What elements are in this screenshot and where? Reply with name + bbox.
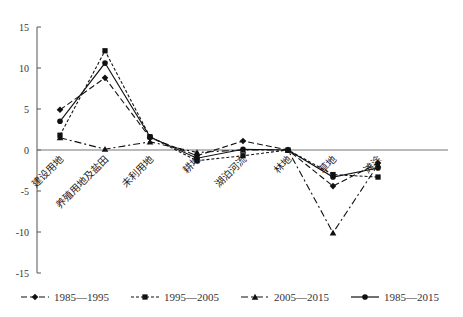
x-category-label: 建设用地 <box>29 153 66 190</box>
legend-label: 1985—1995 <box>54 291 109 303</box>
x-category-label: 未利用地 <box>119 153 156 190</box>
circle-marker-icon <box>147 134 153 140</box>
square-marker-icon <box>375 174 380 179</box>
x-category-label: 林地 <box>271 153 294 176</box>
legend-item: 1985—2015 <box>350 288 460 306</box>
square-marker-icon <box>102 48 107 53</box>
square-marker-icon <box>240 153 245 158</box>
circle-marker-icon <box>102 60 108 66</box>
circle-marker-icon <box>194 155 200 161</box>
diamond-legend-icon <box>20 292 50 302</box>
y-tick-label: 0 <box>24 145 29 156</box>
triangle-marker-icon <box>330 230 337 236</box>
circle-legend-icon <box>350 292 380 302</box>
legend-label: 1985—2015 <box>384 291 439 303</box>
triangle-legend-icon <box>240 292 270 302</box>
legend-item: 1995—2005 <box>130 288 240 306</box>
y-tick-label: 15 <box>19 22 29 33</box>
legend-item: 1985—1995 <box>20 288 130 306</box>
line-chart: 151050-5-10-15建设用地养殖用地及盐田未利用地耕地湖泊河流林地草地滩… <box>0 0 463 290</box>
y-tick-label: -5 <box>21 186 29 197</box>
square-legend-icon <box>130 292 160 302</box>
y-tick-label: -10 <box>16 227 29 238</box>
legend-item: 2005—2015 <box>240 288 350 306</box>
series-lines <box>57 48 382 235</box>
diamond-marker-icon <box>240 138 247 145</box>
circle-marker-icon <box>240 146 246 152</box>
axes: 151050-5-10-15建设用地养殖用地及盐田未利用地耕地湖泊河流林地草地滩… <box>16 22 448 279</box>
y-tick-label: 5 <box>24 104 29 115</box>
circle-marker-icon <box>375 165 381 171</box>
y-tick-label: 10 <box>19 63 29 74</box>
legend: 1985—19951995—20052005—20151985—2015 <box>20 288 460 306</box>
circle-marker-icon <box>285 147 291 153</box>
legend-label: 1995—2005 <box>164 291 219 303</box>
circle-marker-icon <box>330 174 336 180</box>
y-tick-label: -15 <box>16 268 29 279</box>
circle-marker-icon <box>57 118 63 124</box>
legend-label: 2005—2015 <box>274 291 329 303</box>
